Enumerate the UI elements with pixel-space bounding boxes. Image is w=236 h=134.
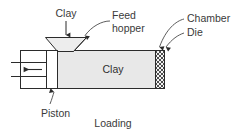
die-leader	[166, 33, 184, 47]
feed-hopper	[46, 38, 87, 52]
die-plate	[156, 51, 165, 89]
extrusion-loading-diagram: Clay	[0, 0, 236, 134]
chamber-label: Chamber	[187, 12, 231, 24]
die	[156, 51, 165, 89]
piston	[11, 51, 58, 89]
feed-hopper-label-line2: hopper	[112, 22, 145, 34]
diagram-canvas: Clay	[0, 0, 236, 134]
feed-hopper-leader	[85, 21, 110, 36]
piston-label: Piston	[41, 107, 70, 119]
clay-top-label: Clay	[55, 7, 77, 19]
piston-head	[47, 51, 58, 89]
die-label: Die	[187, 26, 203, 38]
piston-leader	[50, 92, 54, 104]
chamber-leader	[160, 19, 185, 47]
feed-hopper-label-line1: Feed	[112, 9, 136, 21]
clay-inner-label: Clay	[102, 63, 124, 75]
diagram-caption: Loading	[94, 117, 132, 129]
